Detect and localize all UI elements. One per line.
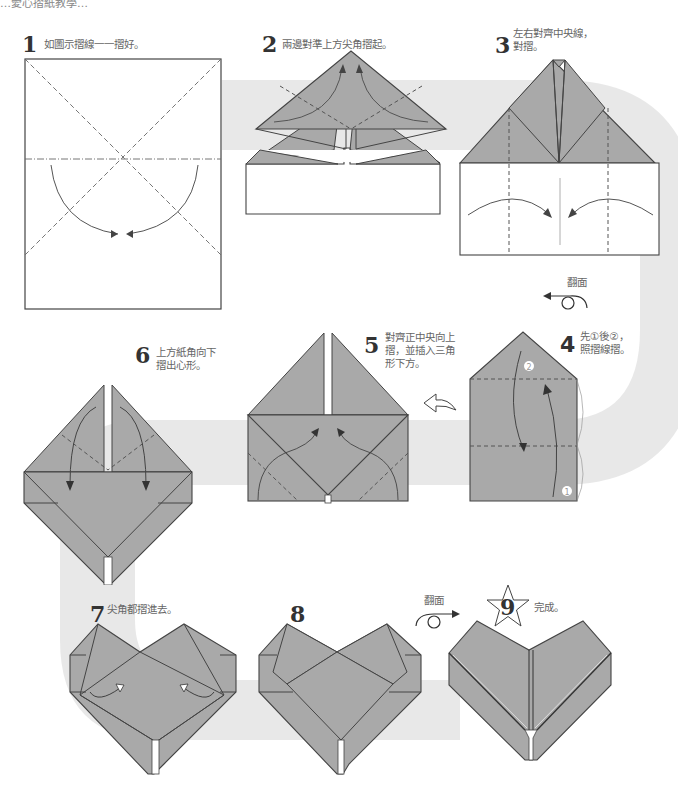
hollow-curved-arrow-icon (420, 390, 460, 418)
step-7-diagram (68, 622, 238, 777)
step-6-number: 6 (135, 344, 150, 366)
step-8-diagram (257, 622, 427, 777)
marker-1: 1 (564, 488, 569, 497)
turn-over-label-1: 翻面 (567, 276, 587, 289)
step-6-diagram (20, 385, 195, 585)
step-3-diagram (455, 55, 678, 260)
step-5-diagram (240, 325, 415, 505)
step-9-number: 9 (500, 596, 515, 618)
step-1-number: 1 (22, 33, 37, 55)
turn-over-loop-arrow-icon (540, 290, 595, 316)
step-3-number: 3 (495, 34, 510, 56)
step-7-text: 尖角都摺進去。 (107, 603, 177, 616)
step-1-text: 如圖示摺線一一摺好。 (44, 38, 144, 51)
step-9-diagram (445, 620, 625, 770)
step-3-text: 左右對齊中央線， 對摺。 (513, 27, 593, 53)
marker-2: 2 (526, 363, 531, 372)
header-title: …愛心摺紙教學… (0, 0, 88, 10)
step-1-diagram (20, 55, 226, 310)
origami-heart-instructions: …愛心摺紙教學… 1 如圖示摺線一一摺好。 2 兩邊對準上方尖角摺起。 (0, 0, 678, 793)
step-6-text: 上方紙角向下 摺出心形。 (156, 346, 216, 372)
step-2-diagram (240, 50, 460, 220)
step-9-text: 完成。 (534, 601, 564, 614)
step-4-diagram: 2 1 (465, 325, 585, 505)
step-4-text: 先①後②， 照摺線摺。 (580, 330, 630, 356)
